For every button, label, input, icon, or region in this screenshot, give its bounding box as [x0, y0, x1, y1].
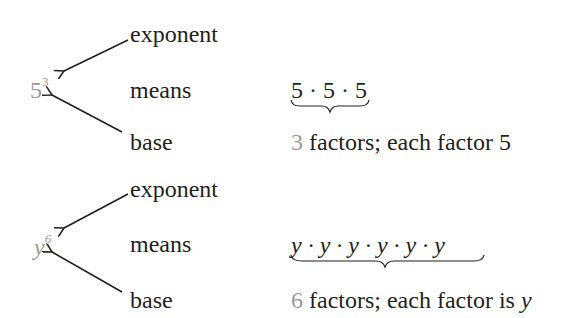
base-arrow-icon — [52, 95, 122, 132]
exponent-arrow-icon — [64, 40, 128, 71]
base-arrow-icon — [52, 252, 122, 292]
annotation-graphics — [0, 0, 581, 318]
exponent-arrow-icon — [64, 194, 128, 228]
underbrace-icon — [291, 255, 484, 267]
underbrace-icon — [291, 100, 369, 112]
